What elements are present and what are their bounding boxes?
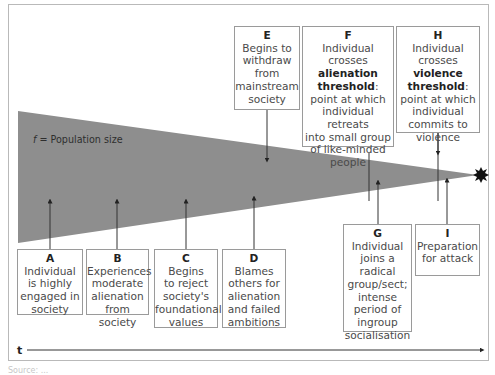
time-axis-label: t <box>17 344 22 357</box>
stage-box-g: G Individual joins a radical group/sect;… <box>343 224 412 332</box>
stage-box-d: D Blames others for alienation and faile… <box>222 249 286 328</box>
source-caption: Source: ... <box>8 366 48 375</box>
attack-burst-icon <box>473 167 489 183</box>
stage-box-a: A Individual is highly engaged in societ… <box>17 249 83 315</box>
stage-box-c: C Begins to reject society's foundationa… <box>154 249 218 328</box>
population-size-label: f = Population size <box>33 134 123 145</box>
stage-box-b: B Experiences moderate alienation from s… <box>86 249 149 315</box>
stage-box-h: H Individual crosses violence threshold:… <box>396 26 480 133</box>
stage-box-f: F Individual crosses alienation threshol… <box>302 26 394 147</box>
stage-box-e: E Begins to withdraw from mainstream soc… <box>234 26 300 110</box>
stage-box-i: I Preparation for attack <box>415 224 480 276</box>
